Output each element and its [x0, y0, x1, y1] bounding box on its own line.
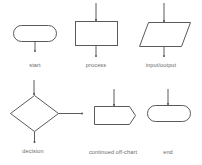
decision-diamond-shape	[11, 96, 59, 132]
offchart-in-arrowhead-icon	[113, 104, 115, 106]
end-terminal-shape	[148, 106, 191, 122]
process-out-arrowhead-icon	[95, 55, 97, 57]
io-parallelogram-shape	[140, 23, 191, 47]
start-terminal-shape	[14, 26, 57, 42]
decision-label: decision	[22, 148, 43, 154]
input-output-label: input/output	[146, 62, 176, 68]
continued-off-chart-label: continued off-chart	[89, 149, 137, 155]
decision-symbol	[11, 80, 84, 143]
end-symbol	[148, 89, 191, 122]
end-label: end	[163, 149, 173, 155]
process-in-arrowhead-icon	[95, 19, 97, 21]
continued-off-chart-symbol	[95, 89, 136, 125]
end-in-arrowhead-icon	[167, 103, 169, 105]
start-symbol	[14, 26, 57, 53]
process-symbol	[76, 3, 118, 57]
decision-right-arrowhead-icon	[81, 113, 83, 115]
process-rect-shape	[76, 22, 118, 46]
io-out-arrowhead-icon	[163, 55, 165, 57]
process-label: process	[86, 62, 106, 68]
io-in-arrowhead-icon	[163, 20, 165, 22]
offchart-pentagon-shape	[95, 107, 136, 125]
flowchart-symbols-canvas	[0, 0, 202, 165]
decision-down-arrowhead-icon	[34, 141, 36, 143]
start-label: start	[29, 62, 40, 68]
start-out-arrowhead-icon	[34, 50, 36, 52]
decision-in-arrowhead-icon	[33, 93, 35, 95]
input-output-symbol	[140, 3, 191, 57]
